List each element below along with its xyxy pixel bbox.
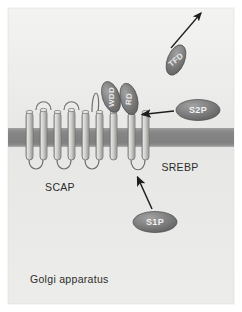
wdd-label: WDD	[107, 87, 116, 107]
srebp-helix-2	[142, 110, 149, 160]
scap-helix-7	[110, 110, 117, 160]
rd-label: RD	[124, 93, 134, 106]
srebp-golgi-diagram: WDD RD TFD S2P S1P SCAP SREBP Golgi appa…	[0, 0, 242, 312]
figure-root: WDD RD TFD S2P S1P SCAP SREBP Golgi appa…	[0, 0, 242, 312]
s2p-protease: S2P	[176, 100, 220, 121]
scap-helices	[26, 108, 117, 160]
scap-helix-6	[96, 110, 103, 160]
scap-helix-2	[40, 108, 47, 160]
scap-helix-4	[68, 108, 75, 160]
scap-helix-5	[82, 110, 89, 160]
scap-label: SCAP	[45, 181, 75, 193]
srebp-label: SREBP	[161, 161, 198, 173]
srebp-helix-1	[128, 110, 135, 160]
scap-helix-1	[26, 110, 33, 160]
s2p-label: S2P	[189, 105, 207, 115]
s1p-label: S1P	[146, 217, 164, 227]
s1p-protease: S1P	[133, 212, 177, 233]
scap-helix-3	[54, 110, 61, 160]
golgi-apparatus-label: Golgi apparatus	[30, 273, 109, 285]
